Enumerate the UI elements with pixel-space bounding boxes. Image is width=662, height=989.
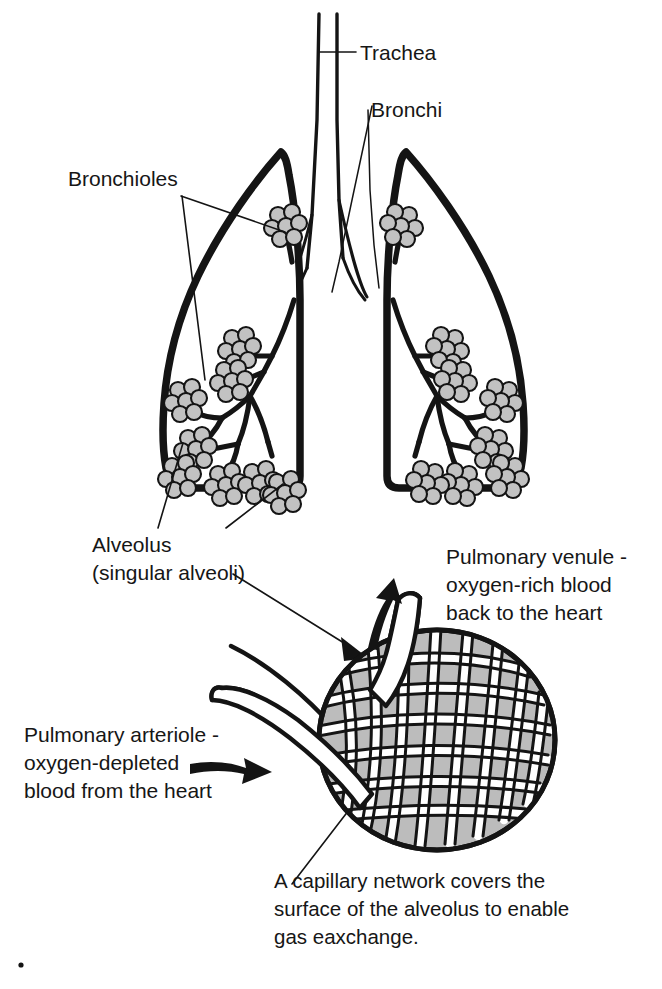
anatomy-diagram: Trachea Bronchi Bronchioles Alveolus (si… xyxy=(0,0,662,989)
lung-alveolus-figure: Trachea Bronchi Bronchioles Alveolus (si… xyxy=(0,0,662,989)
label-venule-line3: back to the heart xyxy=(446,601,603,624)
label-venule-line1: Pulmonary venule - xyxy=(446,545,627,568)
label-bronchi: Bronchi xyxy=(371,98,442,121)
label-alveolus-line1: Alveolus xyxy=(92,533,171,556)
label-bronchioles: Bronchioles xyxy=(68,167,178,190)
label-arteriole-line2: oxygen-depleted xyxy=(24,751,179,774)
label-trachea: Trachea xyxy=(360,41,437,64)
label-venule-line2: oxygen-rich blood xyxy=(446,573,612,596)
label-capillary-line2: surface of the alveolus to enable xyxy=(274,897,569,920)
label-capillary-line3: gas eaxchange. xyxy=(274,925,419,948)
label-arteriole-line1: Pulmonary arteriole - xyxy=(24,723,219,746)
label-alveolus-line2: (singular alveoli) xyxy=(92,561,245,584)
scan-artifact-dot xyxy=(18,962,23,967)
label-arteriole-line3: blood from the heart xyxy=(24,779,212,802)
figure-background xyxy=(0,0,662,989)
label-capillary-line1: A capillary network covers the xyxy=(274,869,545,892)
